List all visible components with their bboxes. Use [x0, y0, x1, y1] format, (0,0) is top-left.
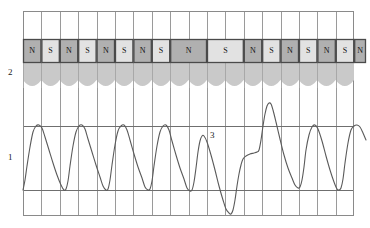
- pole-label-s: S: [122, 46, 126, 55]
- pole-label-s: S: [85, 46, 89, 55]
- pole-label-n: N: [103, 46, 109, 55]
- pole-label-s: S: [223, 46, 227, 55]
- encoder-diagram-svg: NSNSNSNSNSNSNSNSN: [0, 0, 370, 228]
- pole-label-n: N: [66, 46, 72, 55]
- pole-label-n: N: [140, 46, 146, 55]
- pole-label-s: S: [306, 46, 310, 55]
- label-2: 2: [8, 68, 13, 77]
- label-1: 1: [8, 153, 13, 162]
- pole-label-n: N: [186, 46, 192, 55]
- pole-label-s: S: [269, 46, 273, 55]
- label-3: 3: [210, 131, 215, 140]
- figure-canvas: NSNSNSNSNSNSNSNSN 1 2 3: [0, 0, 370, 228]
- pole-label-s: S: [343, 46, 347, 55]
- pole-label-s: S: [48, 46, 52, 55]
- pole-label-s: S: [159, 46, 163, 55]
- magnet-pole-blocks: NSNSNSNSNSNSNSNSN: [24, 40, 366, 63]
- pole-label-n: N: [29, 46, 35, 55]
- pole-label-n: N: [250, 46, 256, 55]
- pole-label-n: N: [287, 46, 293, 55]
- pole-label-n: N: [324, 46, 330, 55]
- pole-label-n: N: [357, 46, 363, 55]
